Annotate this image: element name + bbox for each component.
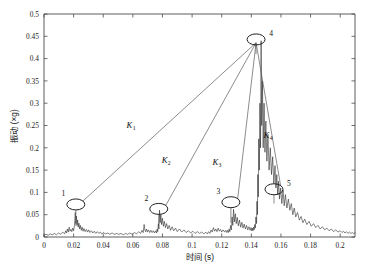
y-axis-tick-labels: 00.050.10.150.20.250.30.350.40.450.5 [26,10,39,242]
y-tick-label: 0 [35,233,39,242]
x-tick-label: 0.2 [336,241,346,250]
peak-marker-number: 4 [269,29,273,38]
marker-leader-line [166,43,257,206]
y-tick-label: 0.3 [30,99,40,108]
x-axis-tick-labels: 00.020.040.060.080.10.120.140.160.180.2 [42,241,345,250]
peak-marker-ellipse [150,203,168,214]
y-tick-label: 0.15 [26,166,39,175]
y-tick-label: 0.45 [26,32,39,41]
y-tick-label: 0.1 [30,188,40,197]
interval-label-k3: K3 [211,157,221,168]
y-tick-label: 0.35 [26,77,39,86]
peak-marker-number: 2 [144,194,148,203]
marker-leader-line [238,43,256,199]
signal-trace [44,41,355,235]
y-tick-label: 0.2 [30,144,40,153]
plot-axes-frame [44,14,355,237]
peak-marker-number: 5 [287,179,291,188]
x-tick-label: 0.06 [126,241,139,250]
y-tick-label: 0.25 [26,121,39,130]
y-tick-label: 0.5 [30,10,40,19]
x-tick-label: 0.08 [156,241,169,250]
x-tick-label: 0.1 [187,241,197,250]
axes-frame [44,14,355,237]
vibration-time-waveform-plot: 12345 00.050.10.150.20.250.30.350.40.450… [0,0,372,279]
peak-marker-number: 1 [61,189,65,198]
axis-tick-marks [44,14,355,237]
interval-label-k2: K2 [161,155,171,166]
x-tick-label: 0.12 [215,241,228,250]
x-tick-label: 0.16 [274,241,287,250]
chart-figure: 12345 00.050.10.150.20.250.30.350.40.450… [0,0,372,279]
interval-label-group: K1K2K3K4 [126,120,273,168]
x-tick-label: 0.04 [97,241,110,250]
marker-leader-line [83,43,256,202]
y-tick-label: 0.4 [30,54,40,63]
marker-leader-lines [76,43,281,226]
peak-marker-ellipse [222,197,240,208]
y-tick-label: 0.05 [26,210,39,219]
x-tick-label: 0.18 [304,241,317,250]
peak-marker-ellipse [67,199,85,210]
x-tick-label: 0.14 [245,241,258,250]
x-tick-label: 0 [42,241,46,250]
x-tick-label: 0.02 [67,241,80,250]
y-axis-title: 振动 (×g) [9,109,19,143]
signal-trace-group [44,41,355,235]
x-axis-title: 时间 (s) [186,252,214,262]
interval-label-k1: K1 [126,120,136,131]
peak-marker-number: 3 [216,187,220,196]
